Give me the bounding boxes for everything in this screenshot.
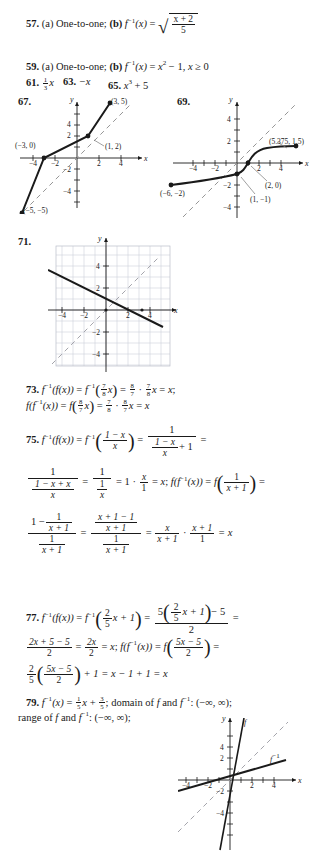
function-f-line bbox=[220, 718, 244, 850]
frac-1-minus-x-num: 1 − x bbox=[103, 430, 127, 440]
answer-number-59: 59. bbox=[26, 61, 39, 72]
graph-71: y x −4 −2 2 4 4 2 −2 −4 bbox=[48, 232, 183, 372]
graph-79-curve-label-f-inverse: f−1 bbox=[270, 752, 280, 764]
frac-8-7-num: 8 bbox=[130, 382, 135, 389]
graph-69-y-axis-label: y bbox=[229, 95, 233, 104]
answer-57-part-b-label: (b) bbox=[109, 18, 122, 29]
graph-69-point-label-1--1: (1, −1) bbox=[250, 195, 270, 204]
graph-67-point-label-3-5: (3, 5) bbox=[111, 97, 127, 106]
graph-67-point-label--5--5: (−5, −5) bbox=[23, 206, 48, 215]
graph-67-xtick-2: 2 bbox=[97, 159, 101, 168]
answer-57-part-a: (a) One-to-one; bbox=[42, 18, 107, 29]
graph-79-x-axis-label: x bbox=[298, 776, 302, 785]
graph-67-svg bbox=[10, 96, 160, 214]
graph-71-ytick-2: 2 bbox=[96, 284, 100, 293]
frac-7-8-num: 7 bbox=[101, 382, 106, 389]
answer-61-num: 1 bbox=[43, 76, 48, 83]
graph-71-ytick-4: 4 bbox=[96, 262, 100, 271]
radicand: x + 25 bbox=[169, 13, 199, 35]
answer-59: 59. (a) One-to-one; (b) f−1(x) = x2 − 1,… bbox=[26, 57, 209, 73]
graph-69-ytick--4: −4 bbox=[223, 203, 231, 212]
answer-77-line-1: 77. f−1(f(x)) = f−1(25x + 1) = 5(25x + 1… bbox=[26, 602, 239, 636]
graph-69-ytick-4: 4 bbox=[227, 115, 231, 124]
graph-79-xtick--4: −4 bbox=[182, 781, 190, 790]
answer-59-part-a: (a) One-to-one; bbox=[42, 61, 107, 72]
graph-71-xtick--4: −4 bbox=[58, 311, 66, 320]
graph-67-point-label--3-0: (−3, 0) bbox=[15, 141, 35, 150]
graph-69-x-axis-label: x bbox=[305, 159, 309, 168]
graph-69: y x −4 −2 2 4 4 2 −2 −4 (5.375, 1.5) (2,… bbox=[155, 96, 331, 221]
graph-67: y x −4 −2 2 4 4 2 −2 −4 (3, 5) (1, 2) (−… bbox=[10, 96, 160, 214]
graph-79-ytick--2: −2 bbox=[216, 787, 224, 796]
answer-number-79: 79. bbox=[26, 697, 39, 708]
graph-71-xtick-2: 2 bbox=[126, 311, 130, 320]
answer-number-65: 65. bbox=[108, 80, 121, 91]
graph-71-x-axis-label: x bbox=[174, 306, 178, 315]
graph-79-xtick--2: −2 bbox=[204, 781, 212, 790]
graph-69-xtick--4: −4 bbox=[189, 164, 197, 173]
identity-line-dashed bbox=[183, 105, 295, 217]
answer-61: 61. 13x bbox=[26, 76, 54, 92]
answer-number-75: 75. bbox=[26, 434, 39, 445]
answer-65: 65. x3 + 5 bbox=[108, 76, 148, 92]
answer-77-line-3: 25(5x − 52) + 1 = x − 1 + 1 = x bbox=[26, 664, 168, 685]
graph-67-ytick-4: 4 bbox=[67, 120, 71, 129]
answer-number-61: 61. bbox=[26, 77, 39, 88]
answer-key-page: 57. (a) One-to-one; (b) f−1(x) = √x + 25… bbox=[0, 0, 331, 865]
graph-71-xtick--2: −2 bbox=[80, 311, 88, 320]
graph-79-ytick-4: 4 bbox=[220, 743, 224, 752]
answer-73-line-2: f(f−1(x)) = f(87x) = 78 · 87x = x bbox=[26, 396, 149, 414]
graph-67-ytick--2: −2 bbox=[63, 165, 71, 174]
answer-75-line-1: 75. f−1(f(x)) = f−1(1 − xx) = 11 − xx+ 1… bbox=[26, 424, 206, 458]
answer-79-line-2: range of f and f−1: (−∞, ∞); bbox=[18, 708, 131, 724]
graph-79-xtick-2: 2 bbox=[250, 781, 254, 790]
answer-number-77: 77. bbox=[26, 612, 39, 623]
graph-79-xtick-4: 4 bbox=[272, 781, 276, 790]
graph-67-x-axis-label: x bbox=[144, 154, 148, 163]
graph-67-ytick-2: 2 bbox=[67, 131, 71, 140]
answer-57: 57. (a) One-to-one; (b) f−1(x) = √x + 25 bbox=[26, 14, 198, 36]
graph-69-point-label--6--2: (−6, −2) bbox=[160, 189, 185, 198]
answer-75-line-2: 11 − x + xx = 11x = 1 · x1 = x; f(f−1(x)… bbox=[26, 466, 265, 500]
radical-sign: √ bbox=[158, 21, 168, 32]
radicand-denominator: 5 bbox=[172, 24, 196, 35]
answer-number-73: 73. bbox=[26, 384, 39, 395]
graph-67-xtick--4: −4 bbox=[29, 159, 37, 168]
answer-number-57: 57. bbox=[26, 18, 39, 29]
answer-61-den: 3 bbox=[43, 83, 48, 91]
graph-71-ytick--4: −4 bbox=[92, 350, 100, 359]
answer-75-line-3: 1 −1x + 11x + 1 = x + 1 − 1x + 11x + 1 =… bbox=[26, 512, 232, 555]
graph-79-curve-label-f: f bbox=[244, 718, 246, 727]
identity-line-dashed bbox=[24, 103, 132, 211]
graph-79-y-axis-label: y bbox=[222, 714, 226, 723]
graph-71-ytick--2: −2 bbox=[92, 328, 100, 337]
answer-63: 63. −x bbox=[63, 76, 91, 88]
graph-69-xtick--2: −2 bbox=[211, 164, 219, 173]
answer-number-63: 63. bbox=[63, 76, 76, 87]
graph-67-y-axis-label: y bbox=[70, 95, 74, 104]
graph-79-ytick-2: 2 bbox=[220, 754, 224, 763]
graph-67-point-label-1-2: (1, 2) bbox=[105, 142, 121, 151]
graph-69-point-label-5375-15: (5.375, 1.5) bbox=[269, 137, 304, 146]
frac-1-minus-x-den: x bbox=[103, 440, 127, 451]
graph-69-xtick-4: 4 bbox=[279, 164, 283, 173]
answer-63-expr: −x bbox=[79, 76, 91, 87]
graph-79-ytick--4: −4 bbox=[216, 809, 224, 818]
graph-71-svg bbox=[48, 232, 183, 372]
graph-79: y x f f−1 −4 −2 2 4 4 2 −2 −4 bbox=[178, 718, 318, 863]
graph-71-y-axis-label: y bbox=[98, 234, 102, 243]
radicand-numerator: x + 2 bbox=[172, 14, 196, 24]
graph-69-ytick-2: 2 bbox=[227, 137, 231, 146]
graph-67-xtick-4: 4 bbox=[119, 159, 123, 168]
answer-77-line-2: 2x + 5 − 52 = 2x2 = x; f(f−1(x)) = f(5x … bbox=[26, 637, 219, 658]
graph-69-ytick--2: −2 bbox=[223, 181, 231, 190]
graph-67-ytick--4: −4 bbox=[63, 187, 71, 196]
answer-number-71: 71. bbox=[18, 236, 31, 248]
graph-79-svg bbox=[178, 718, 318, 863]
graph-71-xtick-4: 4 bbox=[148, 311, 152, 320]
graph-67-xtick--2: −2 bbox=[51, 159, 59, 168]
answer-61-var: x bbox=[49, 77, 54, 88]
graph-69-point-label-2-0: (2, 0) bbox=[265, 181, 281, 190]
graph-69-xtick-2: 2 bbox=[257, 164, 261, 173]
